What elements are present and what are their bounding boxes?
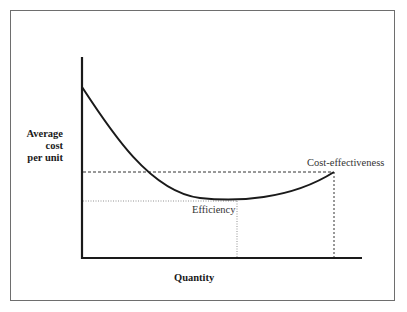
- y-axis-label-line: Average: [26, 128, 63, 140]
- y-axis-label: Average cost per unit: [26, 128, 63, 164]
- y-axis-label-line: per unit: [26, 152, 63, 164]
- x-axis-label: Quantity: [174, 272, 214, 283]
- average-cost-curve: [82, 87, 334, 200]
- efficiency-label: Efficiency: [192, 204, 236, 215]
- y-axis-label-line: cost: [26, 140, 63, 152]
- cost-effectiveness-label: Cost-effectiveness: [307, 157, 384, 168]
